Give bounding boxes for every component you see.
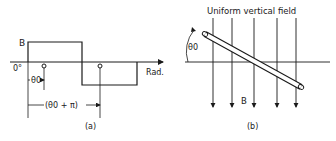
figure: θ0 (θ0 + π) B 0° Rad. (a) Uniform vertic… [0,0,336,141]
panel-b: Uniform vertical field θ0 B (b) [185,6,330,131]
caption-b: (b) [247,122,258,131]
marker-theta0 [42,64,46,68]
theta0-label: θ0 [31,76,41,85]
origin-label: 0° [13,64,22,73]
tilted-rod [201,31,304,91]
x-axis-label: Rad. [146,68,164,77]
caption-a: (a) [85,122,96,131]
marker-theta0-plus-pi [98,64,102,68]
theta0-pi-label: (θ0 + π) [45,101,78,110]
field-b-label: B [241,96,247,106]
panel-a: θ0 (θ0 + π) B 0° Rad. (a) [10,38,164,131]
angle-theta0-label: θ0 [188,43,198,52]
field-title: Uniform vertical field [207,6,296,16]
y-label-b: B [19,38,25,48]
